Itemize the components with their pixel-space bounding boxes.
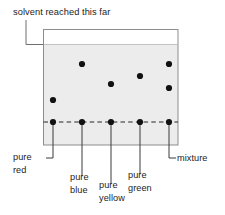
spot-origin-mixture — [166, 119, 172, 125]
label-pure-green-line2: green — [128, 183, 152, 194]
chromatography-figure: solvent reached this far pure red pure b… — [0, 0, 225, 215]
spot-origin-red — [50, 119, 56, 125]
label-pure-red-line1: pure — [13, 152, 32, 163]
spot-origin-blue — [79, 119, 85, 125]
spot-mixture-upper — [166, 61, 172, 67]
label-pure-green-line1: pure — [128, 170, 147, 181]
label-pure-blue-line1: pure — [70, 172, 89, 183]
label-pure-yellow-line2: yellow — [99, 193, 125, 204]
spot-green — [137, 73, 143, 79]
solvent-front-leader-line — [26, 20, 44, 45]
label-pure-red-line2: red — [13, 165, 26, 176]
spot-red — [50, 97, 56, 103]
spot-mixture-lower — [166, 85, 172, 91]
label-pure-yellow-line1: pure — [99, 180, 118, 191]
spot-origin-yellow — [108, 119, 114, 125]
solvent-front-label: solvent reached this far — [13, 7, 110, 18]
spot-origin-green — [137, 119, 143, 125]
label-pure-blue-line2: blue — [70, 185, 88, 196]
spot-blue — [79, 61, 85, 67]
spot-yellow — [108, 81, 114, 87]
label-mixture: mixture — [177, 153, 207, 164]
